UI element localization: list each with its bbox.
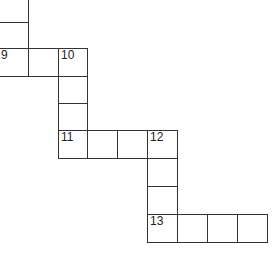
crossword-cell[interactable] xyxy=(147,186,178,215)
crossword-cell[interactable] xyxy=(87,130,118,159)
crossword-cell-9[interactable]: 9 xyxy=(0,48,29,77)
crossword-cell[interactable] xyxy=(177,214,208,243)
clue-number: 12 xyxy=(150,131,163,144)
crossword-cell-11[interactable]: 11 xyxy=(58,130,88,159)
crossword-cell[interactable] xyxy=(0,0,29,23)
crossword-cell-10[interactable]: 10 xyxy=(58,48,88,77)
crossword-cell[interactable] xyxy=(147,158,178,187)
clue-number: 13 xyxy=(150,215,163,228)
clue-number: 9 xyxy=(1,49,8,62)
crossword-cell[interactable] xyxy=(58,76,88,104)
crossword-cell[interactable] xyxy=(237,214,268,243)
crossword-cell[interactable] xyxy=(117,130,148,159)
crossword-cell[interactable] xyxy=(207,214,238,243)
clue-number: 11 xyxy=(61,131,73,144)
crossword-cell[interactable] xyxy=(58,103,88,131)
crossword-cell-13[interactable]: 13 xyxy=(147,214,178,243)
clue-number: 10 xyxy=(61,49,74,62)
crossword-cell[interactable] xyxy=(28,48,59,77)
crossword-cell-12[interactable]: 12 xyxy=(147,130,178,159)
crossword-cell[interactable] xyxy=(0,22,29,49)
